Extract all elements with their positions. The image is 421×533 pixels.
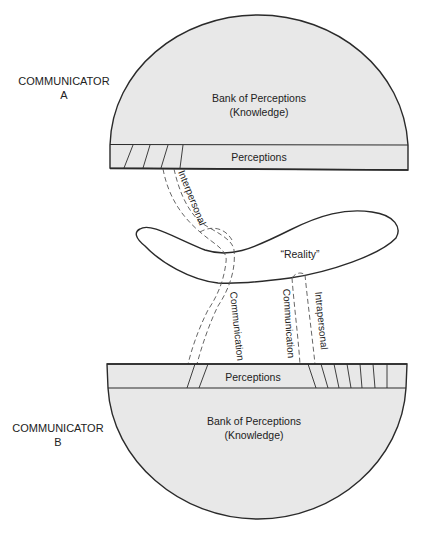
communicator-a-dome: Bank of Perceptions (Knowledge) Percepti… — [110, 15, 408, 170]
intrapersonal-label: Intrapersonal — [313, 291, 330, 350]
reality-label: “Reality” — [280, 248, 320, 260]
interpersonal-label: Interpersonal — [176, 169, 208, 227]
perceptions-a-label: Perceptions — [231, 151, 286, 163]
bank-a-title: Bank of Perceptions — [212, 92, 306, 104]
bank-a-subtitle: (Knowledge) — [230, 106, 289, 118]
diagram-canvas: Bank of Perceptions (Knowledge) Percepti… — [0, 0, 421, 533]
communication-model-diagram: COMMUNICATOR A COMMUNICATOR B Bank of Pe… — [0, 0, 421, 533]
communication-label-left: Communication — [228, 291, 246, 361]
communicator-b-dome: Perceptions Bank of Perceptions (Knowled… — [107, 364, 407, 519]
communication-label-right: Communication — [281, 288, 297, 358]
bank-b-subtitle: (Knowledge) — [225, 429, 284, 441]
reality-shape: “Reality” — [136, 211, 398, 283]
bank-b-title: Bank of Perceptions — [207, 415, 301, 427]
perceptions-b-label: Perceptions — [225, 371, 280, 383]
